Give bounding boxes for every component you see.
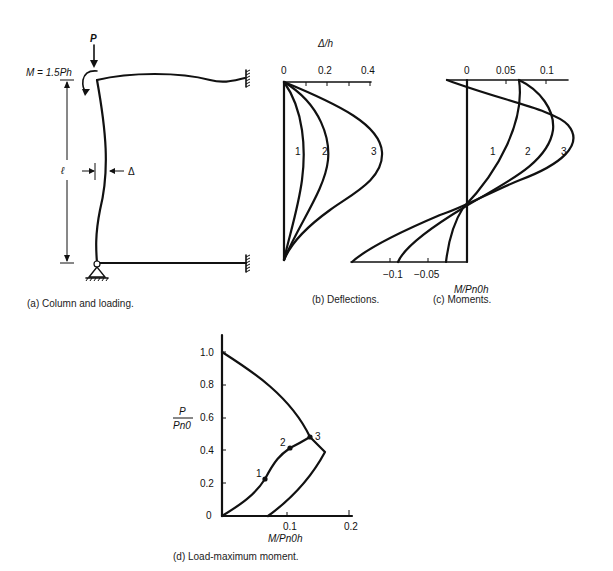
loading-path [222, 437, 310, 516]
tick-c-top-0: 0 [464, 65, 470, 76]
dim-arrow-up-icon [64, 81, 70, 88]
point-2-label: 2 [280, 437, 286, 448]
point-2-marker [287, 445, 292, 450]
point-3-marker [307, 434, 312, 439]
caption-a: (a) Column and loading. [27, 298, 134, 309]
tick-c-top-2: 0.1 [540, 65, 554, 76]
pin-support-icon [89, 267, 105, 277]
figure-canvas: P M = 1.5Ph [0, 0, 613, 571]
length-label: ℓ [60, 165, 65, 176]
tick-b-0: 0 [281, 65, 287, 76]
moment-curve-3 [352, 80, 573, 262]
moment-curve-1 [446, 80, 520, 262]
point-3-label: 3 [315, 431, 321, 442]
load-arrow-head-icon [90, 60, 98, 68]
dim-arrow-down-icon [64, 255, 70, 262]
panel-d-load-moment: 0 0.2 0.4 0.6 0.8 1.0 0.1 0.2 M/Pn0h P P… [173, 335, 358, 544]
tick-c-bottom-1: −0.05 [414, 269, 440, 280]
curve-c-label-3: 3 [561, 146, 567, 157]
deflection-curve-3 [284, 82, 382, 260]
deflection-arrow-right-icon [109, 168, 115, 174]
moment-arc-icon [83, 71, 97, 92]
point-1-label: 1 [256, 468, 262, 479]
axis-label-d-y-num: P [179, 406, 186, 417]
interaction-envelope [222, 352, 325, 516]
tick-d-y-4: 0.8 [200, 379, 214, 390]
deflection-label: Δ [128, 166, 135, 177]
tick-b-1: 0.2 [318, 65, 332, 76]
load-label: P [90, 33, 97, 44]
tick-c-bottom-0: −0.1 [383, 269, 403, 280]
tick-c-top-1: 0.05 [496, 65, 516, 76]
curve-b-label-3: 3 [371, 146, 377, 157]
tick-b-2: 0.4 [361, 65, 375, 76]
tick-d-x-2: 0.2 [344, 521, 358, 532]
moment-label: M = 1.5Ph [26, 67, 72, 78]
tick-d-y-3: 0.6 [200, 412, 214, 423]
tick-d-y-1: 0.2 [200, 478, 214, 489]
panel-a-column: P M = 1.5Ph [26, 33, 250, 281]
caption-c: (c) Moments. [433, 294, 491, 305]
curve-c-label-2: 2 [525, 146, 531, 157]
deflection-curve-1 [284, 82, 304, 260]
axis-label-d-x: M/Pn0h [268, 533, 303, 544]
point-1-marker [262, 476, 267, 481]
panel-c-moments: 0 0.05 0.1 −0.1 −0.05 M/Pn0h 1 2 3 [351, 65, 573, 295]
caption-d: (d) Load-maximum moment. [173, 551, 299, 562]
curve-b-label-1: 1 [295, 146, 301, 157]
curve-b-label-2: 2 [322, 146, 328, 157]
panel-b-deflections: Δ/h 0 0.2 0.4 1 2 3 [281, 38, 382, 260]
tick-d-y-5: 1.0 [200, 347, 214, 358]
curve-c-label-1: 1 [490, 146, 496, 157]
tick-d-y-2: 0.4 [200, 445, 214, 456]
tick-d-y-0: 0 [206, 510, 212, 521]
deflection-arrow-left-icon [89, 168, 95, 174]
axis-label-b: Δ/h [317, 38, 333, 49]
moment-arrow-head-icon [82, 89, 90, 96]
tick-d-x-1: 0.1 [283, 521, 297, 532]
caption-b: (b) Deflections. [312, 294, 379, 305]
top-beam [97, 74, 245, 82]
deformed-column [96, 80, 106, 263]
axis-label-d-y-den: Pn0 [173, 420, 191, 431]
